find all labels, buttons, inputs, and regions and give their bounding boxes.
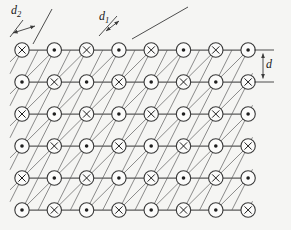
spin-out-of-page-icon: [149, 208, 153, 212]
d-arrowhead: [261, 74, 265, 79]
spin-out-of-page-icon: [85, 144, 89, 148]
lattice-plane-diagram: [0, 0, 291, 230]
spin-out-of-page-icon: [182, 112, 186, 116]
spacing-label-d: d: [266, 58, 272, 73]
spin-out-of-page-icon: [246, 112, 250, 116]
d2-steep-63deg: [10, 50, 54, 138]
spin-out-of-page-icon: [182, 176, 186, 180]
spin-out-of-page-icon: [85, 208, 89, 212]
spacing-label-d1: d1: [99, 10, 109, 25]
spin-out-of-page-icon: [182, 48, 186, 52]
spin-out-of-page-icon: [20, 208, 24, 212]
spin-out-of-page-icon: [214, 144, 218, 148]
spin-out-of-page-icon: [214, 208, 218, 212]
spin-out-of-page-icon: [246, 48, 250, 52]
spin-out-of-page-icon: [53, 176, 57, 180]
spacing-label-d2: d2: [11, 4, 21, 19]
d2-tick: [10, 20, 23, 37]
d2-tick: [33, 9, 52, 44]
spin-out-of-page-icon: [20, 144, 24, 148]
d2-arrowhead: [30, 26, 35, 30]
spin-out-of-page-icon: [149, 80, 153, 84]
spin-out-of-page-icon: [246, 176, 250, 180]
spin-out-of-page-icon: [149, 144, 153, 148]
spin-out-of-page-icon: [53, 112, 57, 116]
d-arrowhead: [261, 54, 265, 59]
spacing-label-d2-sub: 2: [17, 9, 21, 19]
d2-steep-63deg: [200, 105, 253, 210]
spin-out-of-page-icon: [214, 80, 218, 84]
spin-out-of-page-icon: [117, 112, 121, 116]
d1-tick: [132, 7, 188, 39]
spin-out-of-page-icon: [20, 80, 24, 84]
spin-out-of-page-icon: [53, 48, 57, 52]
d1-diagonal-45deg: [10, 50, 151, 190]
spin-out-of-page-icon: [117, 176, 121, 180]
spin-out-of-page-icon: [85, 80, 89, 84]
d1-diagonal-45deg: [151, 110, 252, 210]
spacing-label-d1-sub: 1: [105, 15, 109, 25]
spin-out-of-page-icon: [117, 48, 121, 52]
figure-container: d2 d1 d: [0, 0, 291, 230]
spacing-label-d-main: d: [266, 57, 272, 71]
